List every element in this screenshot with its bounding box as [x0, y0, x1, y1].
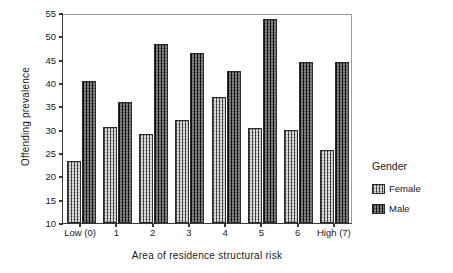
bar-group — [208, 15, 244, 223]
legend-item-female[interactable]: Female — [372, 183, 452, 194]
bar-female — [67, 161, 81, 223]
legend-item-male[interactable]: Male — [372, 203, 452, 214]
legend-item-label: Female — [389, 183, 421, 194]
y-axis-tick-label: 20 — [45, 173, 56, 183]
y-axis-tick-mark — [59, 60, 63, 62]
bar-female — [212, 97, 226, 223]
bar-group — [63, 15, 99, 223]
x-axis-tick-label: Low (0) — [64, 228, 96, 238]
y-axis-tick-label: 10 — [45, 219, 56, 229]
bar-male — [335, 62, 349, 223]
bar-group — [281, 15, 317, 223]
bar-female — [320, 150, 334, 223]
y-axis-tick-mark — [59, 130, 63, 132]
x-axis-tick-label: 5 — [259, 228, 264, 238]
bar-male — [82, 81, 96, 223]
legend: Gender FemaleMale — [372, 160, 452, 223]
bar-group — [172, 15, 208, 223]
plot-area — [62, 14, 352, 224]
bar-female — [175, 120, 189, 223]
bar-female — [139, 134, 153, 223]
legend-entries: FemaleMale — [372, 183, 452, 214]
bar-male — [118, 102, 132, 223]
legend-item-label: Male — [389, 203, 410, 214]
y-axis-tick-label: 15 — [45, 196, 56, 206]
bar-group — [99, 15, 135, 223]
y-axis-tick-mark — [59, 13, 63, 15]
x-axis-tick-label: 2 — [150, 228, 155, 238]
bar-group — [244, 15, 280, 223]
y-axis-tick-mark — [59, 36, 63, 38]
y-axis-tick-mark — [59, 176, 63, 178]
y-axis-tick-label: 25 — [45, 149, 56, 159]
bar-group — [136, 15, 172, 223]
y-axis-title-text: Offending prevalence — [20, 67, 31, 166]
bar-male — [190, 53, 204, 223]
x-axis-tick-label: 6 — [295, 228, 300, 238]
bar-female — [248, 128, 262, 223]
legend-title: Gender — [372, 160, 452, 172]
legend-swatch-icon — [372, 204, 385, 214]
y-axis-tick-label: 40 — [45, 79, 56, 89]
bar-male — [154, 44, 168, 223]
bar-groups — [63, 15, 351, 223]
x-axis-tick-label: High (7) — [317, 228, 351, 238]
bar-group — [317, 15, 353, 223]
y-axis-tick-mark — [59, 223, 63, 225]
y-axis-tick-mark — [59, 106, 63, 108]
y-axis-title: Offending prevalence — [14, 0, 36, 232]
bar-male — [263, 19, 277, 223]
x-axis-tick-label: 3 — [186, 228, 191, 238]
x-axis-title: Area of residence structural risk — [62, 250, 352, 261]
y-axis-tick-mark — [59, 153, 63, 155]
bar-female — [284, 130, 298, 223]
y-axis-tick-label: 30 — [45, 126, 56, 136]
y-axis-tick-mark — [59, 200, 63, 202]
x-axis-tick-label: 4 — [222, 228, 227, 238]
legend-swatch-icon — [372, 184, 385, 194]
y-axis-tick-mark — [59, 83, 63, 85]
x-axis-tick-label: 1 — [114, 228, 119, 238]
bar-chart-figure: Offending prevalence 1015202530354045505… — [0, 0, 453, 273]
y-axis-tick-label: 50 — [45, 33, 56, 43]
y-axis-tick-label: 35 — [45, 103, 56, 113]
bar-female — [103, 127, 117, 223]
y-axis-tick-label: 55 — [45, 9, 56, 19]
y-axis-tick-label: 45 — [45, 56, 56, 66]
bar-male — [299, 62, 313, 223]
bar-male — [227, 71, 241, 223]
y-axis-tick-labels: 10152025303540455055 — [36, 0, 60, 273]
